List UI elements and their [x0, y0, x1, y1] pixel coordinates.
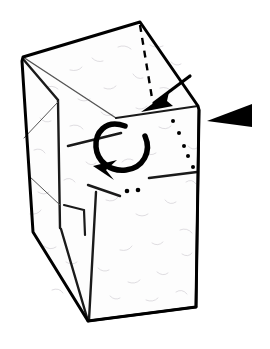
- hidden-edge-dots-horizontal-dot: [136, 188, 141, 193]
- hidden-edge-dots-horizontal-dot: [125, 189, 130, 194]
- origami-diagram: [0, 0, 270, 349]
- hidden-edge-dots-diagonal-dot: [186, 154, 190, 158]
- hidden-edge-dots-diagonal-dot: [191, 165, 195, 169]
- hidden-edge-dots-diagonal-dot: [177, 131, 181, 135]
- hidden-edge-dots-diagonal-dot: [171, 119, 175, 123]
- hidden-edge-dots-diagonal-dot: [182, 144, 186, 148]
- origami-illustration: [0, 0, 270, 349]
